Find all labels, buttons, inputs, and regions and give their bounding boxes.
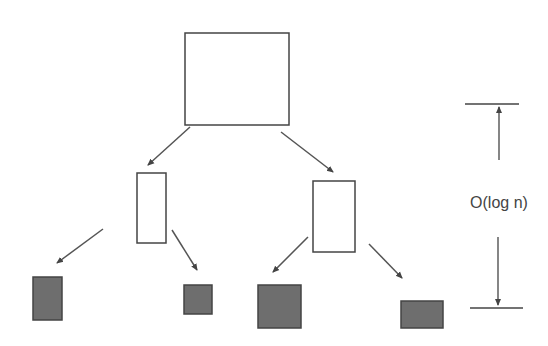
- edge-arrow-icon: [148, 127, 190, 165]
- tree-node-right: [313, 181, 355, 252]
- tree-diagram: O(log n): [0, 0, 548, 346]
- leaf-node: [184, 285, 212, 314]
- tree-node-root: [185, 33, 289, 125]
- leaf-node: [33, 277, 62, 320]
- leaf-node: [258, 285, 301, 328]
- edge-arrow-icon: [281, 132, 333, 172]
- edge-arrow-icon: [57, 229, 103, 263]
- edge-arrow-icon: [172, 230, 197, 270]
- depth-marker: O(log n): [465, 104, 528, 308]
- tree-nodes: [33, 33, 443, 328]
- edge-arrow-icon: [369, 244, 402, 278]
- complexity-label: O(log n): [470, 194, 528, 211]
- tree-node-left: [137, 173, 166, 243]
- edge-arrow-icon: [273, 237, 308, 272]
- leaf-node: [401, 301, 443, 328]
